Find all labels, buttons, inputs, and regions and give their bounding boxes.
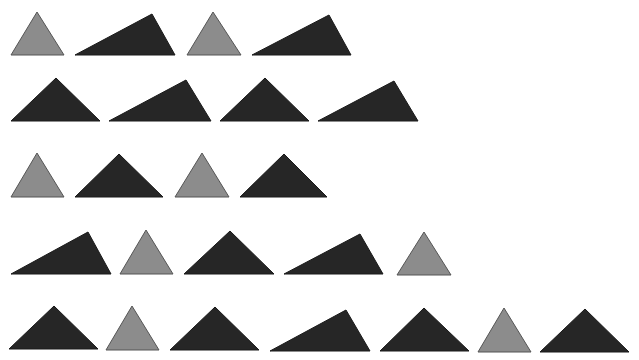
dark-isosceles-right-triangle-icon bbox=[184, 231, 274, 274]
dark-isosceles-right-triangle-icon bbox=[220, 78, 309, 121]
dark-scalene-triangle-icon bbox=[270, 310, 370, 351]
triangle-diagram bbox=[0, 0, 639, 360]
triangle-row-5 bbox=[9, 306, 629, 352]
dark-isosceles-right-triangle-icon bbox=[380, 308, 469, 351]
dark-scalene-triangle-icon bbox=[284, 234, 383, 274]
dark-isosceles-right-triangle-icon bbox=[9, 306, 98, 349]
triangle-row-2 bbox=[11, 78, 418, 121]
gray-equilateral-triangle-icon bbox=[11, 153, 64, 197]
dark-isosceles-right-triangle-icon bbox=[240, 154, 327, 197]
dark-isosceles-right-triangle-icon bbox=[540, 309, 629, 352]
dark-scalene-triangle-icon bbox=[11, 232, 111, 274]
gray-equilateral-triangle-icon bbox=[120, 230, 173, 274]
dark-scalene-triangle-icon bbox=[109, 80, 211, 121]
triangle-row-1 bbox=[11, 12, 351, 55]
dark-isosceles-right-triangle-icon bbox=[170, 307, 259, 350]
triangle-row-4 bbox=[11, 230, 451, 275]
gray-equilateral-triangle-icon bbox=[397, 232, 451, 275]
gray-equilateral-triangle-icon bbox=[187, 12, 241, 55]
dark-scalene-triangle-icon bbox=[75, 14, 175, 55]
dark-scalene-triangle-icon bbox=[318, 81, 418, 121]
gray-equilateral-triangle-icon bbox=[106, 306, 159, 350]
gray-equilateral-triangle-icon bbox=[478, 308, 531, 352]
dark-isosceles-right-triangle-icon bbox=[75, 154, 163, 197]
gray-equilateral-triangle-icon bbox=[11, 12, 64, 55]
triangle-row-3 bbox=[11, 153, 327, 197]
dark-isosceles-right-triangle-icon bbox=[11, 78, 100, 121]
dark-scalene-triangle-icon bbox=[252, 15, 351, 55]
gray-equilateral-triangle-icon bbox=[175, 153, 229, 197]
